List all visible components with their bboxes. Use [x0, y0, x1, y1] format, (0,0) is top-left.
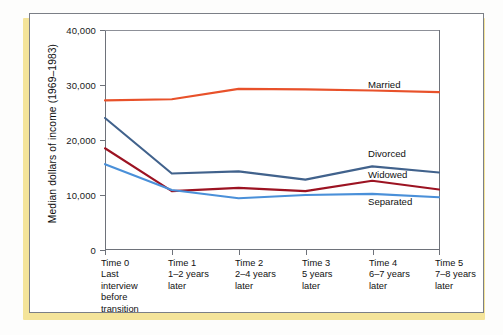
series-label-married: Married	[368, 79, 401, 90]
figure-container: Median dollars of income (1969–1983) 40,…	[0, 0, 503, 335]
series-line-married	[105, 89, 439, 101]
series-lines	[0, 0, 503, 335]
series-label-divorced: Divorced	[368, 148, 406, 159]
series-label-widowed: Widowed	[368, 169, 407, 180]
series-label-separated: Separated	[368, 196, 412, 207]
plot-wrapper: Median dollars of income (1969–1983) 40,…	[0, 0, 503, 335]
